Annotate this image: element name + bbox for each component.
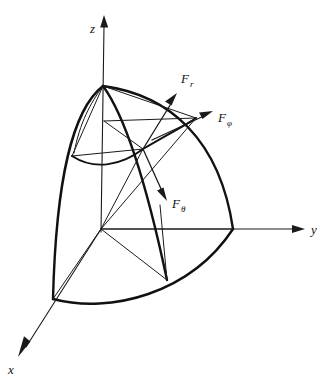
vector-f-theta-label-sub: θ: [181, 204, 186, 214]
vector-f-r-label-sub: r: [190, 79, 194, 89]
spherical-coordinate-diagram: Fr Fφ Fθ z y x: [0, 0, 326, 379]
axis-label-x: x: [7, 362, 14, 377]
meridian-arc-mid: [103, 86, 167, 280]
vector-f-r-label-main: F: [180, 71, 190, 86]
equator-arc-bottom: [53, 229, 233, 304]
vector-f-phi-label-main: F: [217, 110, 227, 125]
vector-f-r-arrowhead: [165, 93, 177, 106]
vector-f-theta-arrowhead: [157, 188, 167, 202]
axis-x-line: [26, 229, 101, 347]
figure-canvas: Fr Fφ Fθ z y x: [0, 0, 326, 379]
vector-f-r-label: Fr: [180, 71, 194, 89]
rib-pole-to-right: [103, 86, 196, 118]
axis-y-arrowhead: [292, 225, 305, 233]
axis-x-arrowhead: [18, 336, 31, 357]
axis-x: [18, 229, 101, 357]
meridian-arc-left: [53, 86, 103, 299]
vector-f-phi-label: Fφ: [217, 110, 232, 128]
axis-z-line: [101, 26, 104, 232]
vector-f-r-line: [143, 102, 172, 149]
force-vector-group: Fr Fφ Fθ: [143, 71, 232, 214]
vector-f-theta-label-main: F: [171, 196, 181, 211]
outer-sphere-patch: [53, 86, 233, 304]
rib-pole-to-left-inner: [72, 86, 103, 156]
radius-origin-to-bottom-left: [53, 229, 101, 299]
vector-f-phi-label-sub: φ: [227, 118, 232, 128]
axis-label-group: z y x: [7, 21, 317, 377]
vector-f-theta-line: [143, 149, 162, 191]
axis-z-arrowhead: [100, 15, 108, 28]
axis-label-z: z: [89, 21, 95, 36]
vector-f-theta-label: Fθ: [171, 196, 186, 214]
axis-label-y: y: [309, 222, 317, 237]
